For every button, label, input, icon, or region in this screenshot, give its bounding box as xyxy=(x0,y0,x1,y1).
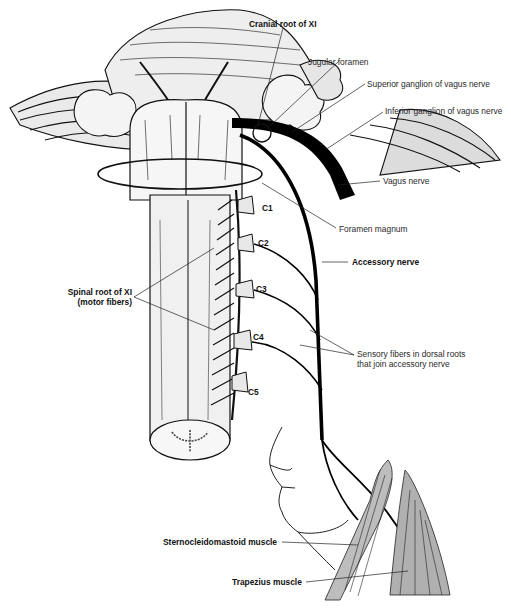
face-profile xyxy=(270,427,348,570)
label-sensory-fibers: Sensory fibers in dorsal roots that join… xyxy=(357,349,465,369)
label-c1: C1 xyxy=(262,203,273,213)
label-inferior-ganglion: Inferior ganglion of vagus nerve xyxy=(385,106,502,116)
label-sternocleidomastoid: Sternocleidomastoid muscle xyxy=(163,537,277,547)
anatomy-diagram: Cranial root of XI Jugular foramen Super… xyxy=(0,0,511,611)
label-vagus-nerve: Vagus nerve xyxy=(383,176,429,186)
sensory-fibers xyxy=(252,244,322,390)
label-c2: C2 xyxy=(258,238,269,248)
sensory-line2: that join accessory nerve xyxy=(357,359,465,369)
cervical-roots xyxy=(232,196,254,392)
label-accessory-nerve: Accessory nerve xyxy=(352,257,419,267)
muscles xyxy=(325,460,450,600)
label-superior-ganglion: Superior ganglion of vagus nerve xyxy=(367,79,490,89)
sensory-line1: Sensory fibers in dorsal roots xyxy=(357,349,465,359)
spinal-root-line2: (motor fibers) xyxy=(30,297,132,307)
label-spinal-root: Spinal root of XI (motor fibers) xyxy=(30,287,132,307)
medulla xyxy=(130,100,242,200)
label-foramen-magnum: Foramen magnum xyxy=(339,224,407,234)
spinal-root-line1: Spinal root of XI xyxy=(30,287,132,297)
label-c4: C4 xyxy=(253,332,264,342)
spinal-cord xyxy=(150,190,239,460)
label-c3: C3 xyxy=(256,284,267,294)
label-trapezius: Trapezius muscle xyxy=(232,577,302,587)
label-jugular-foramen: Jugular foramen xyxy=(308,57,369,67)
label-cranial-root: Cranial root of XI xyxy=(249,19,316,29)
label-c5: C5 xyxy=(248,387,259,397)
